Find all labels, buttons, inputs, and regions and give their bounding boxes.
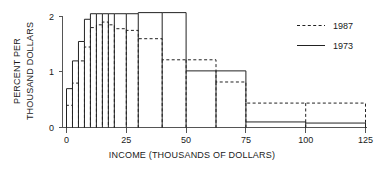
x-tick-label-75: 75	[241, 135, 251, 145]
income-distribution-chart: 2 1 0 0 25 50 75 100 125 INCOME (THOUSAN…	[0, 0, 383, 172]
chart-legend: 1987 1973	[297, 21, 353, 51]
legend-label-1987: 1987	[333, 21, 353, 31]
x-tick-label-125: 125	[358, 135, 373, 145]
x-axis-label: INCOME (THOUSANDS OF DOLLARS)	[109, 150, 275, 160]
series-1987-bin-dividers	[72, 25, 305, 128]
y-axis-label-line2: THOUSAND DOLLARS	[25, 22, 35, 120]
y-axis-label-line1: PERCENT PER	[12, 38, 22, 104]
x-tick-label-25: 25	[121, 135, 131, 145]
y-tick-label-1: 1	[49, 67, 54, 77]
y-tick-label-0: 0	[49, 123, 54, 133]
x-tick-label-100: 100	[298, 135, 313, 145]
x-tick-label-50: 50	[181, 135, 191, 145]
y-tick-label-2: 2	[49, 12, 54, 22]
x-tick-label-0: 0	[64, 135, 69, 145]
chart-canvas: 2 1 0 0 25 50 75 100 125 INCOME (THOUSAN…	[0, 0, 383, 172]
series-1973-bin-dividers	[72, 13, 305, 128]
legend-label-1973: 1973	[333, 41, 353, 51]
